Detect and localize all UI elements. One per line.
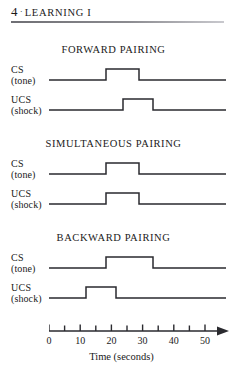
tick-label-0: 0 (47, 335, 52, 346)
panel-backward: BACKWARD PAIRING CS (tone) UCS (shock) (0, 232, 233, 320)
panel-backward-title-text: BACKWARD PAIRING (57, 232, 171, 243)
conditioning-timing-figure: FORWARD PAIRING CS (tone) UCS (shock) SI… (0, 44, 233, 374)
time-axis-line (49, 320, 233, 336)
page-number: 4 (11, 4, 18, 19)
panel-forward-title: FORWARD PAIRING (0, 44, 233, 55)
panel-simultaneous-title: SIMULTANEOUS PAIRING (0, 138, 233, 149)
header-separator: · (18, 6, 25, 16)
tick-label-30: 30 (138, 335, 148, 346)
panel-simultaneous-trace-ucs: UCS (shock) (0, 186, 233, 212)
tick-label-40: 40 (169, 335, 179, 346)
panel-forward: FORWARD PAIRING CS (tone) UCS (shock) (0, 44, 233, 132)
panel-forward-trace-cs: CS (tone) (0, 62, 233, 88)
panel-simultaneous-title-text: SIMULTANEOUS PAIRING (45, 138, 181, 149)
time-axis-caption: Time (seconds) (0, 351, 233, 362)
panel-forward-trace-ucs: UCS (shock) (0, 92, 233, 118)
panel-backward-title: BACKWARD PAIRING (0, 232, 233, 243)
panel-forward-title-text: FORWARD PAIRING (61, 44, 165, 55)
tick-label-10: 10 (75, 335, 85, 346)
tick-label-50: 50 (200, 335, 210, 346)
panel-backward-trace-cs: CS (tone) (0, 250, 233, 276)
waveform-simultaneous-cs (49, 156, 233, 182)
chapter-title: LEARNING I (25, 7, 92, 18)
panel-simultaneous-trace-cs: CS (tone) (0, 156, 233, 182)
waveform-backward-cs (49, 250, 233, 276)
tick-label-20: 20 (106, 335, 116, 346)
time-axis: 0 10 20 30 40 50 Time (seconds) (0, 320, 233, 374)
waveform-simultaneous-ucs (49, 186, 233, 212)
header-rule (11, 21, 224, 23)
waveform-forward-ucs (49, 92, 233, 118)
waveform-forward-cs (49, 62, 233, 88)
time-axis-caption-text: Time (seconds) (89, 351, 154, 362)
waveform-backward-ucs (49, 280, 233, 306)
time-axis-tick-labels: 0 10 20 30 40 50 (49, 335, 233, 349)
page-header: 4·LEARNING I (11, 2, 91, 20)
panel-simultaneous: SIMULTANEOUS PAIRING CS (tone) UCS (shoc… (0, 138, 233, 226)
panel-backward-trace-ucs: UCS (shock) (0, 280, 233, 306)
